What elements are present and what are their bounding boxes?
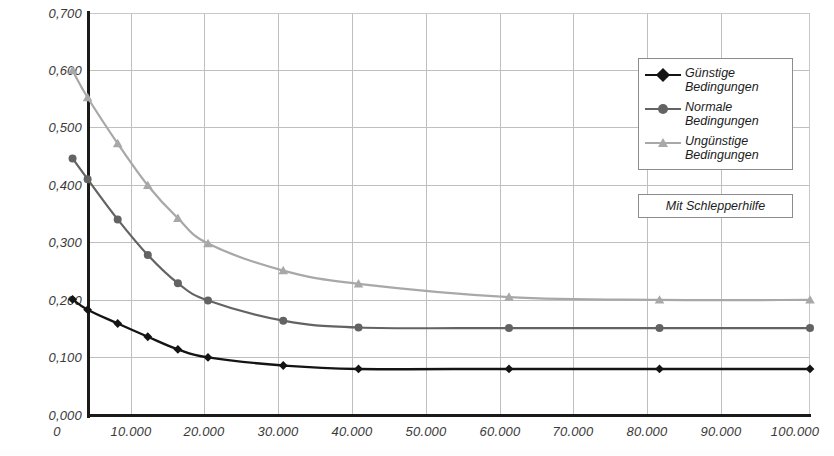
data-point-marker [279, 361, 288, 370]
bottom-cut-off-strip [0, 450, 834, 456]
series-line [73, 158, 810, 328]
annotation-mit-schlepperhilfe: Mit Schlepperhilfe [638, 194, 793, 218]
series-line [73, 299, 810, 369]
data-point-marker [114, 215, 122, 223]
legend-entry-normale: Normale Bedingungen [645, 100, 786, 128]
data-point-marker [354, 365, 363, 374]
series-1 [68, 295, 814, 373]
legend-entry-guenstige: Günstige Bedingungen [645, 66, 786, 94]
data-point-marker [204, 353, 213, 362]
data-point-marker [355, 324, 363, 332]
data-point-marker [655, 365, 664, 374]
legend-key-circle-icon [645, 101, 681, 117]
data-point-marker [144, 251, 152, 259]
data-point-marker [68, 66, 78, 74]
data-point-marker [174, 279, 182, 287]
legend-label: Günstige Bedingungen [685, 66, 759, 94]
legend-entry-unguenstige: Ungünstige Bedingungen [645, 134, 786, 162]
data-point-marker [204, 297, 212, 305]
data-point-marker [505, 324, 513, 332]
data-point-marker [84, 175, 92, 183]
legend-key-triangle-icon [645, 135, 681, 151]
data-point-marker [69, 154, 77, 162]
data-point-marker [656, 324, 664, 332]
legend-key-diamond-icon [645, 67, 681, 83]
data-point-marker [505, 365, 514, 374]
data-point-marker [143, 332, 152, 341]
data-point-marker [806, 324, 814, 332]
chart-legend: Günstige Bedingungen Normale Bedingungen… [638, 58, 793, 170]
chart-root: 0,700 0,600 0,500 0,400 0,300 0,200 0,10… [0, 0, 834, 456]
series-2 [69, 154, 814, 332]
legend-label: Normale Bedingungen [685, 100, 759, 128]
data-point-marker [279, 317, 287, 325]
data-point-marker [113, 319, 122, 328]
data-point-marker [806, 365, 815, 374]
data-point-marker [174, 345, 183, 354]
legend-label: Ungünstige Bedingungen [685, 134, 759, 162]
